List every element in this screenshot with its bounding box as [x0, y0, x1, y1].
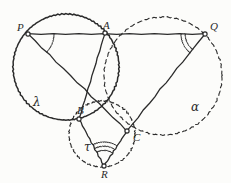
- point-label-P: P: [17, 22, 24, 33]
- angle-Q: [181, 34, 193, 53]
- angle-Q-arc-2: [185, 34, 193, 50]
- point-label-R: R: [101, 169, 108, 180]
- segment-PC: [28, 34, 127, 132]
- figure-canvas: [0, 0, 231, 183]
- point-label-A: A: [103, 20, 110, 31]
- circle-label-tau: τ: [84, 141, 91, 153]
- segment-BR: [79, 119, 105, 166]
- geometry-figure: PAQBCRλατ: [0, 0, 231, 183]
- point-P: [26, 32, 30, 36]
- angle-marks-layer: [47, 34, 193, 153]
- segment-CR: [104, 131, 126, 166]
- angle-R-arc-1: [93, 142, 117, 146]
- angle-R-arc-3: [97, 150, 113, 153]
- point-label-B: B: [77, 105, 84, 116]
- point-C: [125, 129, 129, 133]
- point-B: [77, 117, 81, 121]
- point-label-Q: Q: [210, 21, 218, 32]
- circle-label-lambda: λ: [33, 96, 41, 108]
- segment-QC: [127, 34, 206, 132]
- point-label-C: C: [133, 132, 140, 143]
- angle-P-arc-1: [47, 34, 54, 52]
- circle-label-alpha: α: [191, 101, 199, 113]
- point-A: [103, 31, 107, 35]
- angle-R-arc-2: [95, 146, 115, 150]
- angle-P: [47, 34, 54, 52]
- point-Q: [203, 32, 207, 36]
